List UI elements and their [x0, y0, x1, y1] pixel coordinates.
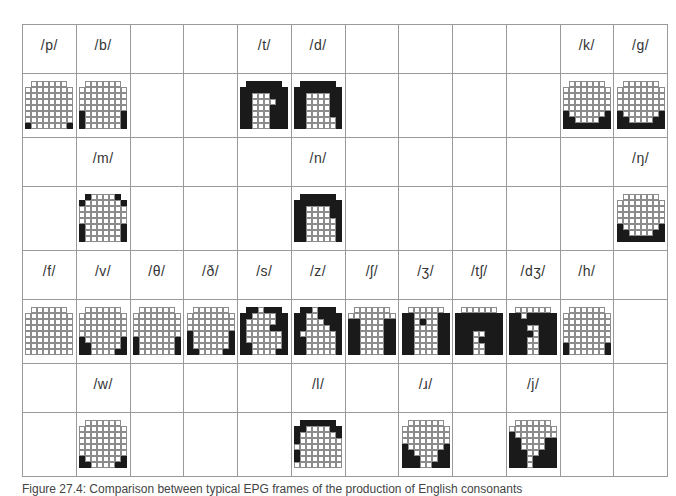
- electrode-contact: [605, 349, 611, 355]
- palatogram-cell: [399, 300, 453, 364]
- phoneme-label: /j/: [507, 364, 560, 392]
- label-cell: [238, 364, 292, 413]
- phoneme-label: [184, 138, 237, 150]
- label-cell: /ɹ/: [399, 364, 453, 413]
- phoneme-label: [507, 138, 560, 150]
- phoneme-label: [614, 251, 667, 263]
- phoneme-label: [23, 138, 76, 150]
- electrode-contact: [175, 349, 181, 355]
- phoneme-label: /ŋ/: [614, 138, 667, 166]
- label-cell: [453, 25, 507, 74]
- electrode-contact: [282, 349, 288, 355]
- phoneme-label: [453, 25, 506, 37]
- electrode-contact: [336, 123, 342, 129]
- label-cell: /s/: [238, 251, 292, 300]
- label-cell: [614, 364, 668, 413]
- epg-palatogram-d: [294, 81, 342, 129]
- phoneme-label: [131, 364, 184, 376]
- electrode-contact: [390, 349, 396, 355]
- phoneme-label: /p/: [23, 25, 76, 53]
- electrode-contact: [229, 349, 235, 355]
- palatogram-cell: [184, 74, 238, 138]
- phoneme-label: /w/: [77, 364, 130, 392]
- phoneme-label: [399, 25, 452, 37]
- phoneme-label: [23, 364, 76, 376]
- label-cell: [23, 364, 77, 413]
- electrode-contact: [121, 349, 127, 355]
- phoneme-label: /f/: [23, 251, 76, 279]
- label-cell: [345, 364, 399, 413]
- palatogram-cell: [453, 413, 507, 477]
- electrode: [67, 349, 73, 355]
- phoneme-label: [131, 138, 184, 150]
- label-cell: /k/: [560, 25, 614, 74]
- label-cell: /z/: [291, 251, 345, 300]
- palatogram-cell: [399, 74, 453, 138]
- electrode-contact: [659, 123, 665, 129]
- label-cell: /g/: [614, 25, 668, 74]
- phoneme-label: [184, 364, 237, 376]
- electrode-contact: [551, 349, 557, 355]
- label-cell: /ʃ/: [345, 251, 399, 300]
- phoneme-label: [238, 364, 291, 376]
- palatogram-cell: [506, 74, 560, 138]
- electrode-contact: [336, 349, 342, 355]
- palatogram-cell: [614, 413, 668, 477]
- phoneme-label: [614, 364, 667, 376]
- palatogram-cell: [238, 413, 292, 477]
- palatogram-cell: [76, 74, 130, 138]
- phoneme-label: /l/: [292, 364, 345, 392]
- epg-palatogram-p: [25, 81, 73, 129]
- label-cell: [130, 138, 184, 187]
- phoneme-label: /θ/: [131, 251, 184, 279]
- palatogram-cell: [76, 300, 130, 364]
- label-cell: [184, 138, 238, 187]
- phoneme-label: /t/: [238, 25, 291, 53]
- phoneme-label: [131, 25, 184, 37]
- phoneme-label: [346, 25, 399, 37]
- label-cell: /b/: [76, 25, 130, 74]
- palatogram-cell: [76, 413, 130, 477]
- phoneme-label-row: /p//b//t//d//k//g/: [23, 25, 668, 74]
- phoneme-label: [561, 138, 614, 150]
- epg-palatogram-v: [79, 307, 127, 355]
- epg-palatogram-m: [79, 194, 127, 242]
- electrode-contact: [497, 349, 503, 355]
- label-cell: /l/: [291, 364, 345, 413]
- palatogram-cell: [399, 187, 453, 251]
- palatogram-cell: [130, 413, 184, 477]
- electrode-contact: [551, 462, 557, 468]
- phoneme-label: [561, 364, 614, 376]
- palatogram-cell: [291, 300, 345, 364]
- phoneme-label: /tʃ/: [453, 251, 506, 279]
- phoneme-label: /ʒ/: [399, 251, 452, 279]
- phoneme-label: [507, 25, 560, 37]
- phoneme-label: /ʃ/: [346, 251, 399, 279]
- phoneme-label: /n/: [292, 138, 345, 166]
- label-cell: [506, 25, 560, 74]
- label-cell: [184, 364, 238, 413]
- label-cell: /d/: [291, 25, 345, 74]
- phoneme-label: /v/: [77, 251, 130, 279]
- palatogram-cell: [238, 187, 292, 251]
- epg-palatogram-dj: [509, 307, 557, 355]
- palatogram-cell: [506, 413, 560, 477]
- palatogram-cell: [184, 413, 238, 477]
- palatogram-cell: [184, 300, 238, 364]
- label-cell: /dʒ/: [506, 251, 560, 300]
- epg-frames-table: /p//b//t//d//k//g//m//n//ŋ//f//v//θ//ð//…: [22, 24, 668, 477]
- electrode-contact: [121, 123, 127, 129]
- palatogram-cell: [291, 74, 345, 138]
- palatogram-cell: [23, 413, 77, 477]
- epg-palatogram-sh: [348, 307, 396, 355]
- label-cell: [560, 364, 614, 413]
- phoneme-label: /m/: [77, 138, 130, 166]
- phoneme-label: /ɹ/: [399, 364, 452, 392]
- palatogram-cell: [345, 300, 399, 364]
- epg-palatogram-s: [240, 307, 288, 355]
- palatogram-cell: [399, 413, 453, 477]
- epg-palatogram-k: [563, 81, 611, 129]
- palatogram-cell: [238, 74, 292, 138]
- label-cell: [238, 138, 292, 187]
- label-cell: /j/: [506, 364, 560, 413]
